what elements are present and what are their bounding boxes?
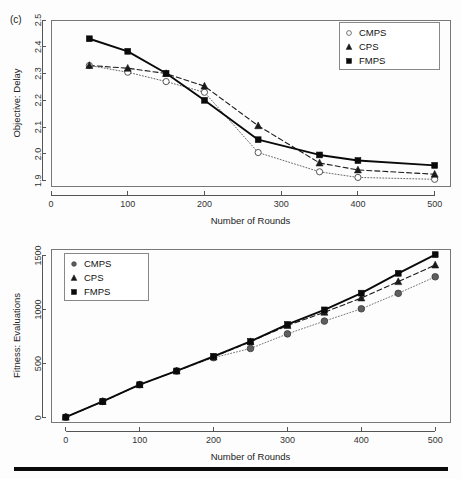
x-axis-tick-label: 400: [354, 435, 369, 445]
legend-glyph-filled-circle: [72, 262, 77, 267]
legend-box: [339, 22, 439, 69]
marker-square: [163, 70, 169, 76]
marker-square: [63, 414, 69, 420]
y-axis-tick-label: 2.2: [33, 94, 43, 107]
legend: CMPSCPSFMPS: [64, 253, 148, 300]
y-axis-title: Fitness: Evaluations: [11, 293, 22, 378]
y-axis-tick-label: 2.0: [33, 148, 43, 161]
marker-square: [125, 48, 131, 54]
x-axis-title: Number of Rounds: [211, 451, 291, 460]
legend-label-cps: CPS: [359, 41, 379, 52]
x-axis-title: Number of Rounds: [211, 215, 291, 226]
marker-square: [248, 339, 254, 345]
x-axis-tick-label: 500: [427, 199, 442, 209]
y-axis-tick-label: 1500: [33, 245, 43, 265]
x-axis-tick-label: 100: [132, 435, 147, 445]
marker-square: [321, 307, 327, 313]
marker-triangle: [432, 261, 439, 268]
y-axis-tick-label: 2.5: [33, 14, 43, 27]
marker-open-circle: [201, 89, 207, 95]
marker-filled-circle: [247, 345, 254, 352]
marker-square: [395, 270, 401, 276]
x-axis-tick-label: 200: [206, 435, 221, 445]
legend-label-cmps: CMPS: [84, 258, 111, 269]
x-axis-tick-label: 300: [280, 435, 295, 445]
marker-triangle: [255, 122, 262, 129]
x-axis-tick-label: 300: [274, 199, 289, 209]
marker-open-circle: [163, 78, 169, 84]
series-markers-cps: [86, 62, 438, 177]
marker-square: [432, 252, 438, 258]
marker-open-circle: [316, 169, 322, 175]
marker-square: [202, 97, 208, 103]
y-axis-tick-label: 2.1: [33, 121, 43, 134]
legend-glyph-square: [347, 59, 352, 64]
marker-square: [432, 162, 438, 168]
chart-panel-objective-delay: 1.92.02.12.22.32.42.50100200300400500Num…: [0, 0, 461, 232]
x-axis-tick-label: 200: [197, 199, 212, 209]
y-axis-tick-label: 1000: [33, 300, 43, 320]
marker-square: [285, 322, 291, 328]
x-axis-tick-label: 0: [63, 435, 68, 445]
figure-container: 1.92.02.12.22.32.42.50100200300400500Num…: [0, 0, 461, 479]
y-axis-tick-label: 0: [33, 415, 43, 420]
legend: CMPSCPSFMPS: [339, 22, 439, 69]
panel-label: (c): [10, 14, 22, 25]
marker-square: [100, 399, 106, 405]
legend-label-cmps: CMPS: [359, 27, 386, 38]
y-axis-title: Objective: Delay: [11, 68, 22, 137]
marker-square: [355, 158, 361, 164]
marker-square: [255, 137, 261, 143]
footer-rule: [14, 467, 448, 471]
y-axis-tick-label: 1.9: [33, 174, 43, 187]
marker-square: [358, 290, 364, 296]
marker-filled-circle: [284, 331, 291, 338]
marker-filled-circle: [321, 318, 328, 325]
marker-open-circle: [255, 149, 261, 155]
marker-open-circle: [355, 174, 361, 180]
objective-delay-chart: 1.92.02.12.22.32.42.50100200300400500Num…: [0, 0, 461, 232]
series-markers-cmps: [86, 62, 437, 182]
x-axis-tick-label: 0: [48, 199, 53, 209]
legend-label-fmps: FMPS: [359, 55, 385, 66]
series-line-cps: [89, 66, 434, 175]
marker-filled-circle: [432, 273, 439, 280]
x-axis-tick-label: 100: [120, 199, 135, 209]
chart-panel-fitness-evaluations: 0500100015000100200300400500Number of Ro…: [0, 232, 461, 460]
y-axis-tick-label: 2.3: [33, 67, 43, 80]
fitness-evaluations-chart: 0500100015000100200300400500Number of Ro…: [0, 232, 461, 460]
marker-filled-circle: [358, 305, 365, 312]
legend-glyph-open-circle: [347, 31, 352, 36]
y-axis-tick-label: 500: [33, 356, 43, 371]
marker-square: [317, 152, 323, 158]
legend-label-cps: CPS: [84, 272, 104, 283]
legend-label-fmps: FMPS: [84, 286, 110, 297]
y-axis-tick-label: 2.4: [33, 41, 43, 54]
marker-triangle: [316, 159, 323, 166]
marker-square: [86, 36, 92, 42]
marker-square: [174, 368, 180, 374]
x-axis-tick-label: 500: [428, 435, 443, 445]
x-axis-tick-label: 400: [350, 199, 365, 209]
legend-glyph-square: [72, 290, 77, 295]
marker-square: [137, 382, 143, 388]
marker-filled-circle: [395, 290, 402, 297]
marker-square: [211, 353, 217, 359]
marker-triangle: [395, 278, 402, 285]
